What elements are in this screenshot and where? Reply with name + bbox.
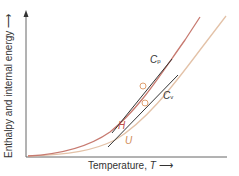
x-axis-arrow-glyph: ⟶ — [156, 160, 173, 171]
cv-point-marker — [142, 100, 148, 106]
cp-label-subscript: p — [157, 58, 160, 64]
y-axis-label-text: Enthalpy and internal energy — [3, 31, 14, 158]
h-curve-label: H — [118, 120, 125, 131]
cp-point-marker — [140, 83, 146, 89]
x-axis-label: Temperature, T ⟶ — [88, 160, 173, 171]
u-curve-label: U — [125, 135, 132, 146]
cv-label-subscript: v — [170, 94, 173, 100]
y-axis-arrow-icon — [24, 10, 29, 17]
y-axis-arrow-glyph: ⟶ — [3, 14, 14, 31]
diagram-canvas — [0, 0, 239, 176]
cv-label: Cv — [163, 90, 173, 101]
cp-label: Cp — [150, 54, 161, 65]
x-axis-label-text: Temperature, — [88, 160, 150, 171]
h-curve — [28, 17, 200, 156]
y-axis-label: Enthalpy and internal energy ⟶ — [3, 14, 14, 158]
